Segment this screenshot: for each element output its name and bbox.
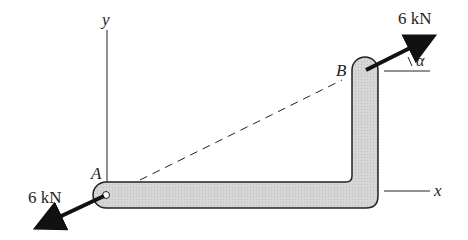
force-a-label: 6 kN bbox=[28, 188, 62, 207]
angle-arc-mark bbox=[408, 57, 412, 66]
angle-label: α bbox=[416, 52, 425, 69]
force-b-label: 6 kN bbox=[398, 9, 432, 28]
y-axis-label: y bbox=[100, 10, 110, 29]
x-axis-label: x bbox=[433, 181, 442, 200]
point-b-label: B bbox=[336, 61, 347, 80]
dashed-line-ab bbox=[140, 80, 342, 180]
point-a-label: A bbox=[90, 164, 102, 183]
bent-member-diagram: y x α 6 kN 6 kN A B bbox=[0, 0, 468, 240]
